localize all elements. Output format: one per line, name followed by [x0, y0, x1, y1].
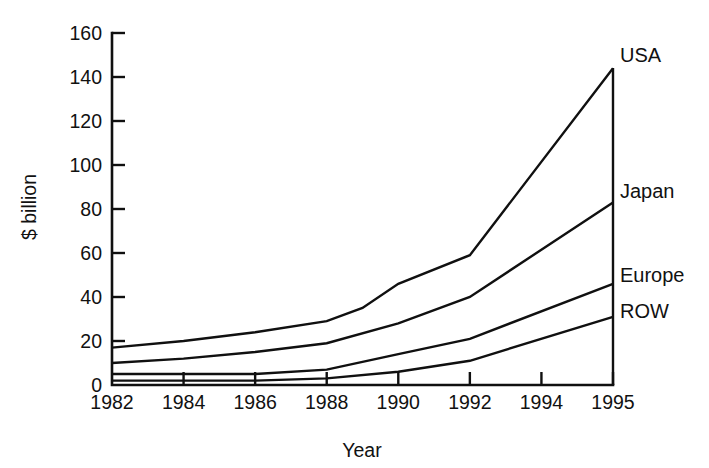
y-axis-tick-labels: 020406080100120140160 [69, 22, 102, 396]
y-tick-label: 40 [80, 286, 102, 308]
y-tick-label: 140 [69, 66, 102, 88]
chart-figure: $ billion 020406080100120140160 19821984… [0, 0, 709, 468]
y-tick-label: 80 [80, 198, 102, 220]
series-label-row: ROW [620, 300, 669, 322]
y-axis-title: $ billion [18, 174, 40, 240]
y-axis-title-group: $ billion [18, 174, 40, 240]
y-axis-ticks [112, 33, 125, 341]
series-label-europe: Europe [620, 264, 685, 286]
series-label-usa: USA [620, 44, 662, 66]
x-tick-label: 1995 [591, 391, 635, 413]
series-line-europe [112, 284, 613, 374]
y-tick-label: 120 [69, 110, 102, 132]
y-tick-label: 160 [69, 22, 102, 44]
series-line-usa [112, 68, 613, 347]
y-tick-label: 20 [80, 330, 102, 352]
series-label-japan: Japan [620, 180, 675, 202]
x-tick-label: 1990 [377, 391, 421, 413]
x-tick-label: 1984 [162, 391, 206, 413]
x-axis-tick-labels: 19821984198619881990199219941995 [90, 391, 635, 413]
y-tick-label: 60 [80, 242, 102, 264]
y-tick-label: 100 [69, 154, 102, 176]
x-axis-title: Year [342, 439, 382, 461]
x-tick-label: 1994 [520, 391, 564, 413]
x-tick-label: 1986 [233, 391, 276, 413]
x-tick-label: 1982 [90, 391, 133, 413]
stacked-area-chart: $ billion 020406080100120140160 19821984… [0, 0, 709, 468]
series-line-row [112, 317, 613, 381]
x-tick-label: 1992 [448, 391, 491, 413]
x-tick-label: 1988 [305, 391, 348, 413]
series-paths [112, 68, 613, 380]
